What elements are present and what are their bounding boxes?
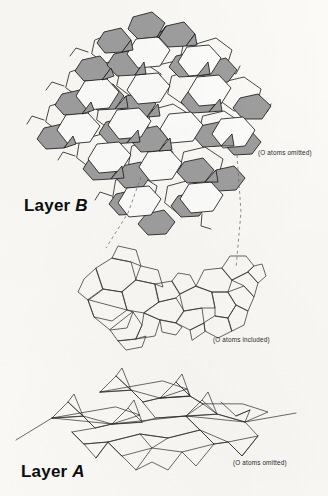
layer-a-label-italic: A <box>72 462 84 481</box>
figure-page: .pg { stroke:#1c1c1c; stroke-width:0.85;… <box>0 0 328 496</box>
layer-a-row-second <box>52 396 268 428</box>
layer-b-label-text: Layer <box>24 196 75 215</box>
layer-a-label-text: Layer <box>21 462 72 481</box>
layer-a-note: (O atoms omitted) <box>233 459 287 466</box>
layer-b-label-italic: B <box>75 196 87 215</box>
structure-figure: .pg { stroke:#1c1c1c; stroke-width:0.85;… <box>0 0 328 496</box>
middle-detail-note: (O atoms included) <box>213 336 270 343</box>
middle-detail <box>78 246 266 350</box>
layer-b-note: (O atoms omitted) <box>258 149 312 156</box>
layer-b-label: Layer B <box>24 196 88 216</box>
layer-a-apex-spurs <box>68 368 250 422</box>
layer-a-label: Layer A <box>21 462 85 482</box>
layer-a-chain <box>16 368 296 470</box>
